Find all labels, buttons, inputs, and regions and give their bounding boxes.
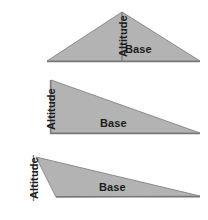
obtuse-triangle-altitude-label: Altitude	[29, 157, 40, 199]
triangle-diagram-figure: Altitude Base Altitude Base Altitude Bas…	[0, 0, 208, 220]
diagram-obtuse-triangle: Altitude Base	[0, 0, 208, 220]
obtuse-triangle-base-label: Base	[99, 182, 126, 193]
